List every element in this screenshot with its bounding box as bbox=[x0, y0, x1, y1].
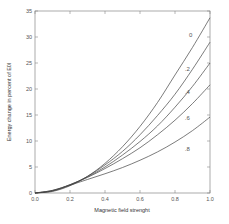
axis-ticks: 0.00.20.40.60.81.005101520253035 bbox=[26, 8, 214, 202]
x-axis-label: Magnetic field strenght bbox=[94, 207, 150, 213]
curve-p6 bbox=[35, 85, 210, 193]
y-axis-label: Energy change in percent of E0l bbox=[6, 63, 12, 141]
chart: 0.00.20.40.60.81.005101520253035 0.2.4.6… bbox=[0, 0, 229, 224]
plot-frame bbox=[35, 11, 210, 193]
curve-label: .8 bbox=[185, 146, 191, 152]
y-tick-label: 5 bbox=[29, 164, 32, 170]
curve-label: .4 bbox=[185, 89, 191, 95]
y-tick-label: 20 bbox=[26, 86, 32, 92]
x-tick-label: 0.4 bbox=[101, 196, 109, 202]
curve-label: 0 bbox=[189, 32, 193, 38]
curve-0 bbox=[35, 18, 210, 193]
curve-label: .6 bbox=[185, 115, 191, 121]
x-tick-label: 0.6 bbox=[136, 196, 144, 202]
curve-label: .2 bbox=[185, 66, 191, 72]
y-tick-label: 0 bbox=[29, 190, 32, 196]
curve-labels: 0.2.4.6.8 bbox=[185, 32, 193, 152]
y-tick-label: 30 bbox=[26, 34, 32, 40]
y-tick-label: 25 bbox=[26, 60, 32, 66]
x-tick-label: 1.0 bbox=[206, 196, 214, 202]
x-tick-label: 0.0 bbox=[31, 196, 39, 202]
curves bbox=[35, 18, 210, 193]
y-tick-label: 15 bbox=[26, 112, 32, 118]
y-tick-label: 35 bbox=[26, 8, 32, 14]
plot-border bbox=[35, 11, 210, 193]
y-tick-label: 10 bbox=[26, 138, 32, 144]
x-tick-label: 0.8 bbox=[171, 196, 179, 202]
x-tick-label: 0.2 bbox=[66, 196, 74, 202]
